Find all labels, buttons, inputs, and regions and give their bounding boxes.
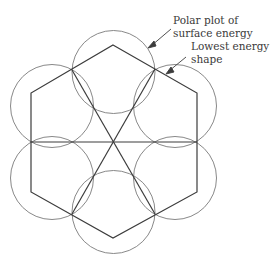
polar-lobe-upper-right [134,65,217,148]
polar-lobe-lower-right [134,137,217,220]
lowest-energy-shape-label: Lowest energy shape [191,40,269,66]
polar-lobe-upper-left [11,65,94,148]
polar-lobe-bottom [72,171,155,254]
polar-plot-label-line1: Polar plot of [173,14,253,27]
shape-label-line2: shape [191,53,269,66]
polar-plot-label: Polar plot of surface energy [173,14,253,40]
polar-plot-label-line2: surface energy [173,27,253,40]
polar-lobe-lower-left [11,137,94,220]
lowest-energy-hexagon [31,45,197,238]
polar-lobe-top [72,31,155,114]
arrowhead-polar-plot-icon [148,41,156,48]
shape-label-line1: Lowest energy [191,40,269,53]
